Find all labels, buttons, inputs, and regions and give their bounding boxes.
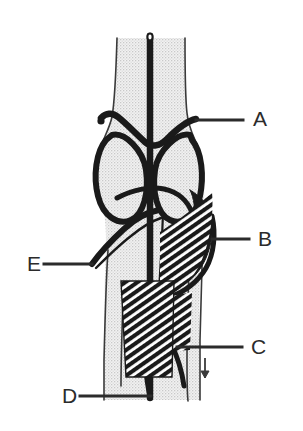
anatomy-figure: A B C D E [0, 0, 303, 431]
label-a: A [253, 108, 267, 129]
anatomy-illustration [0, 0, 303, 431]
band-medial-tubercle [97, 117, 104, 124]
medial-femoral-condyle [96, 135, 147, 222]
small-arrow-marker [201, 358, 209, 378]
label-d: D [62, 385, 77, 406]
label-c: C [251, 336, 266, 357]
label-e: E [27, 253, 41, 274]
label-b: B [258, 228, 272, 249]
vessel-terminal-loop [147, 34, 152, 41]
